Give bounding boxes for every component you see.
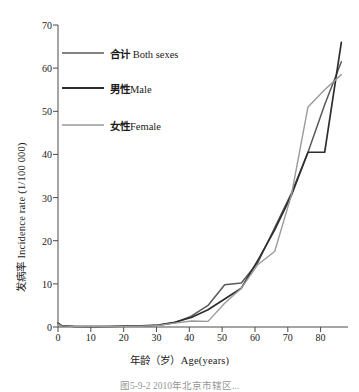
series-line <box>58 42 341 326</box>
legend-label-male: 男性Male <box>110 81 152 96</box>
y-axis-ticks <box>53 25 58 327</box>
x-axis-ticks <box>58 327 321 332</box>
legend-cn-both-sexes: 合计 <box>110 49 133 60</box>
data-series-layer <box>58 42 341 326</box>
series-line <box>58 75 341 327</box>
legend-en-male: Male <box>130 84 152 95</box>
legend-label-both-sexes: 合计 Both sexes <box>110 46 178 61</box>
legend-label-female: 女性Female <box>110 118 161 133</box>
legend-swatches <box>62 53 104 125</box>
incidence-rate-line-chart: 发病率 Incidence rate (1/100 000) 70 60 50 … <box>0 0 359 392</box>
legend-cn-male: 男性 <box>110 84 130 95</box>
legend-cn-female: 女性 <box>110 121 130 132</box>
legend-en-both-sexes: Both sexes <box>133 49 179 60</box>
figure-caption: 图5-9-2 2010年北京市辖区... <box>0 378 359 392</box>
x-axis-title: 年龄（岁）Age(years) <box>0 352 359 367</box>
plot-area <box>0 0 359 392</box>
series-line <box>58 62 341 327</box>
legend-en-female: Female <box>130 121 161 132</box>
